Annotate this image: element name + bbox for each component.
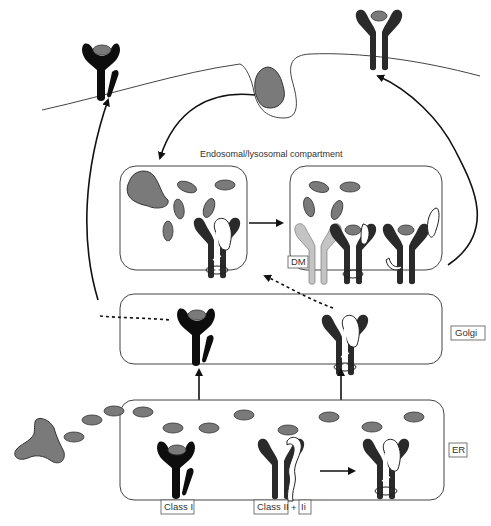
peptide — [404, 412, 424, 422]
endocytosed-antigen — [255, 67, 285, 108]
golgi-label: Golgi — [455, 327, 477, 338]
peptide — [176, 179, 198, 195]
golgi-class-i-exit — [100, 316, 170, 320]
plus-sign: + — [291, 502, 297, 513]
dm-label: DM — [291, 256, 306, 267]
class-ii-label: Class II — [257, 501, 289, 512]
peptide — [172, 198, 185, 219]
peptide — [215, 180, 235, 190]
er-class-ii-with-ii — [258, 437, 304, 501]
golgi-label-box: Golgi — [451, 326, 485, 340]
endosome-class-ii-peptide-loading — [330, 224, 376, 285]
golgi-class-ii-ii-complex — [322, 315, 368, 376]
peptide — [302, 196, 317, 218]
golgi-class-i-molecule — [177, 309, 215, 366]
peptide — [163, 423, 183, 433]
endosome-class-ii-loaded — [383, 224, 429, 285]
er-class-ii-ii-complex — [363, 439, 409, 500]
surface-class-ii-molecule — [356, 10, 402, 71]
diagram-canvas: Endosomal/lysosomal compartment DM Golgi — [0, 0, 491, 526]
er-class-i-molecule — [157, 442, 195, 499]
endosome-class-ii-ii-complex — [194, 218, 240, 279]
class-ii-label-box: Class II — [254, 500, 289, 514]
peptide — [64, 432, 84, 442]
peptide — [340, 182, 360, 192]
dm-label-box: DM — [288, 256, 308, 268]
class-i-label: Class I — [164, 501, 193, 512]
peptide — [329, 199, 345, 221]
peptide — [308, 180, 330, 195]
ii-label-box: Ii — [299, 500, 311, 514]
endosome-antigen — [127, 171, 168, 208]
ii-label: Ii — [301, 501, 306, 512]
peptide — [199, 423, 219, 433]
peptide — [278, 425, 298, 435]
peptide — [319, 412, 339, 422]
golgi-compartment — [120, 294, 442, 364]
peptide — [82, 415, 102, 425]
cytosolic-antigen — [15, 418, 65, 462]
peptide — [201, 197, 217, 219]
peptide — [234, 410, 254, 420]
er-label: ER — [452, 444, 465, 455]
endosomal-compartment-label: Endosomal/lysosomal compartment — [200, 149, 343, 159]
ii-fragment — [427, 208, 439, 237]
peptide — [133, 407, 153, 417]
peptide — [362, 422, 382, 432]
arrow-to-surface-class-i — [87, 100, 108, 300]
peptide — [104, 406, 124, 416]
peptide — [163, 221, 173, 241]
class-i-label-box: Class I — [161, 500, 194, 514]
er-label-box: ER — [449, 443, 467, 457]
